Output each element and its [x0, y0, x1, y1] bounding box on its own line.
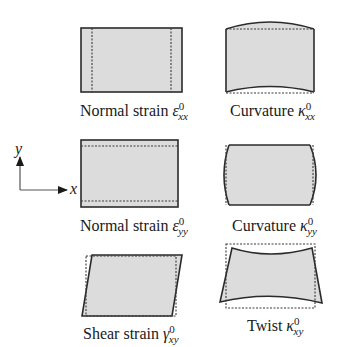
deformed-shape	[82, 255, 182, 316]
panel-label: Curvature κ0xx	[230, 100, 315, 122]
panel-shear-strain-xy: Shear strain γ0xy	[82, 255, 182, 345]
panel-label: Normal strain ε0yy	[80, 215, 188, 237]
panel-label: Curvature κ0yy	[232, 215, 317, 237]
coordinate-axes: y x	[13, 140, 77, 197]
deformation-modes-diagram: y x Normal strain ε0xx Curvature κ0xx No…	[0, 0, 342, 347]
panel-label: Twist κ0xy	[247, 315, 303, 337]
panel-curvature-xx: Curvature κ0xx	[226, 22, 315, 122]
panel-normal-strain-xx: Normal strain ε0xx	[80, 28, 188, 122]
panel-twist-xy: Twist κ0xy	[220, 244, 322, 337]
panel-label: Normal strain ε0xx	[80, 100, 188, 122]
y-axis-label: y	[13, 140, 23, 158]
deformed-shape	[226, 22, 314, 92]
x-axis-label: x	[69, 180, 77, 197]
deformed-shape	[224, 145, 316, 205]
deformed-shape	[81, 140, 178, 207]
deformed-shape	[220, 248, 322, 303]
deformed-shape	[81, 28, 182, 92]
panel-label: Shear strain γ0xy	[83, 323, 179, 345]
panel-normal-strain-yy: Normal strain ε0yy	[80, 140, 188, 237]
panel-curvature-yy: Curvature κ0yy	[224, 145, 317, 237]
